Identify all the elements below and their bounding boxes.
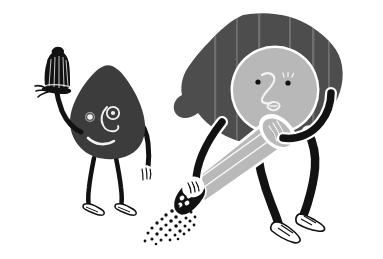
pepper-left-hand xyxy=(183,177,204,196)
dot-eye-icon xyxy=(87,114,93,120)
illustration-canvas: Salt and Pepper Characters Illustration … xyxy=(0,0,383,259)
right-eye-icon xyxy=(285,80,290,85)
scene-artwork xyxy=(0,0,383,259)
left-eye-icon xyxy=(255,79,260,84)
